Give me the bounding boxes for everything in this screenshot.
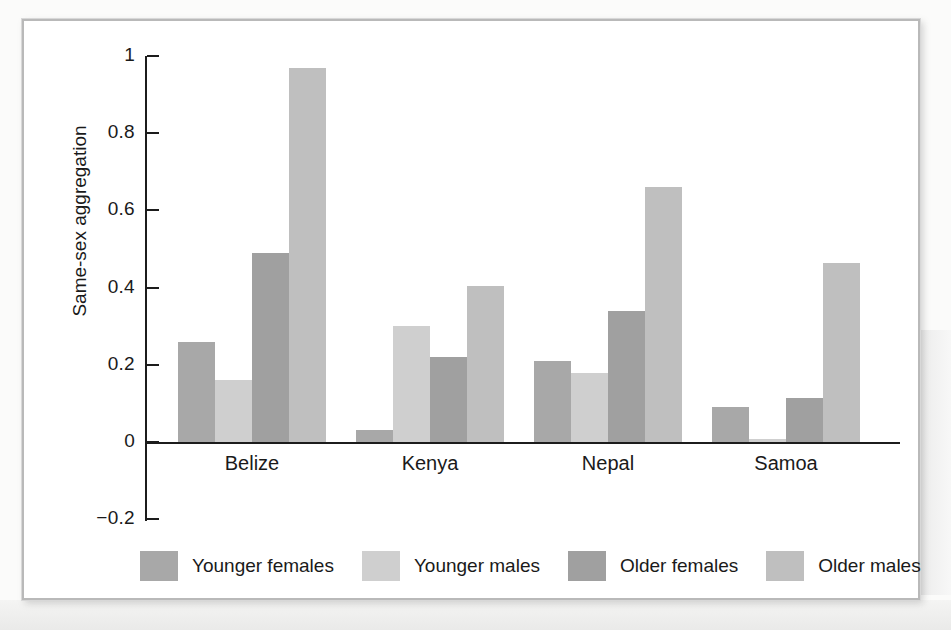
y-axis-tick <box>147 518 159 520</box>
x-axis-category-label: Samoa <box>688 452 884 475</box>
legend-label: Older males <box>818 555 920 577</box>
legend-item: Younger females <box>140 551 334 581</box>
bar <box>608 311 645 442</box>
bar <box>749 439 786 442</box>
y-axis-tick-label: −0.2 <box>73 507 135 529</box>
bar <box>571 373 608 442</box>
y-axis-tick-label: 0.4 <box>73 276 135 298</box>
legend-swatch <box>140 551 178 581</box>
bar <box>252 253 289 442</box>
bar <box>786 398 823 442</box>
bar <box>823 263 860 442</box>
x-axis-category-label: Nepal <box>510 452 706 475</box>
bar <box>215 380 252 442</box>
legend-swatch <box>568 551 606 581</box>
legend-label: Younger females <box>192 555 334 577</box>
y-axis-tick-label: 0 <box>73 430 135 452</box>
legend-item: Older males <box>766 551 920 581</box>
y-axis-tick-label: 0.2 <box>73 353 135 375</box>
y-axis-tick-label: 0.6 <box>73 198 135 220</box>
bar <box>712 407 749 442</box>
y-axis-tick-label: 0.8 <box>73 121 135 143</box>
bar <box>430 357 467 442</box>
legend-item: Older females <box>568 551 738 581</box>
y-axis-tick-label: 1 <box>73 44 135 66</box>
chart-legend: Younger femalesYounger malesOlder female… <box>140 551 949 581</box>
bar <box>178 342 215 442</box>
legend-swatch <box>766 551 804 581</box>
bar <box>645 187 682 442</box>
x-axis-category-label: Kenya <box>332 452 528 475</box>
legend-label: Older females <box>620 555 738 577</box>
bars-layer <box>146 56 900 442</box>
bar <box>356 430 393 442</box>
legend-swatch <box>362 551 400 581</box>
bar <box>534 361 571 442</box>
x-axis-baseline <box>146 442 900 444</box>
bar <box>289 68 326 442</box>
x-axis-category-label: Belize <box>154 452 350 475</box>
legend-label: Younger males <box>414 555 540 577</box>
bar <box>393 326 430 442</box>
bar <box>467 286 504 442</box>
bar-chart: Same-sex aggregation −0.200.20.40.60.81 … <box>0 0 951 630</box>
legend-item: Younger males <box>362 551 540 581</box>
